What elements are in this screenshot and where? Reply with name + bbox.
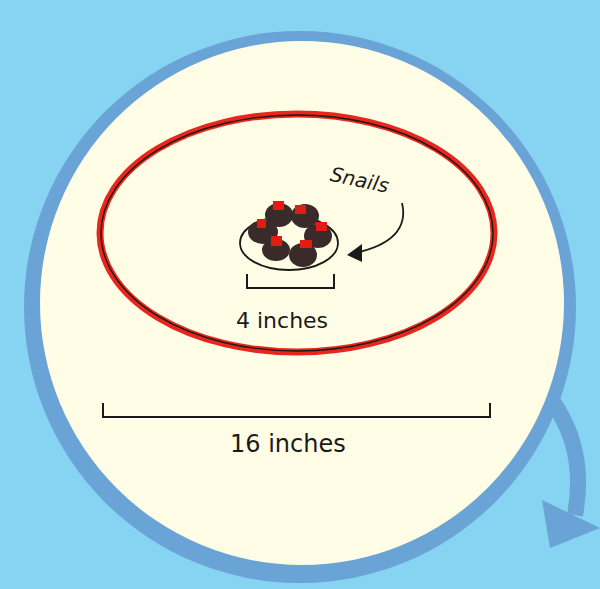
- large-dimension-label: 16 inches: [230, 430, 346, 458]
- plate-size-diagram: Snails 4 inches 16 inches: [0, 0, 600, 589]
- plate: [40, 41, 564, 565]
- small-dimension-label: 4 inches: [236, 308, 328, 333]
